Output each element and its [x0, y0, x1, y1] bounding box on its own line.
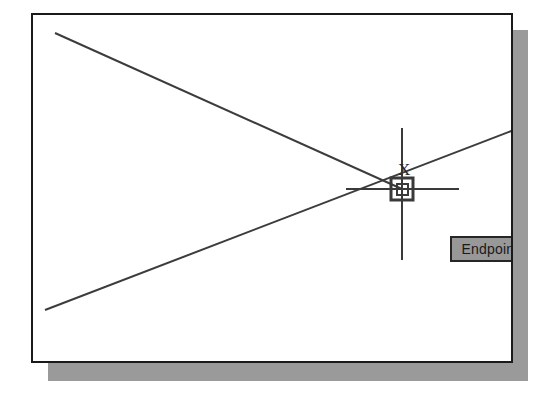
screenshot-root: X Endpoint — [0, 0, 548, 400]
drawing-geometry — [33, 15, 511, 361]
ascending-line — [45, 130, 511, 310]
drawing-canvas[interactable]: X Endpoint — [31, 13, 513, 363]
x-crossing-glyph: X — [398, 161, 410, 178]
descending-line — [55, 33, 402, 189]
status-badge: Endpoint — [450, 236, 513, 262]
snap-tooltip-label: Endpoint — [462, 242, 513, 256]
